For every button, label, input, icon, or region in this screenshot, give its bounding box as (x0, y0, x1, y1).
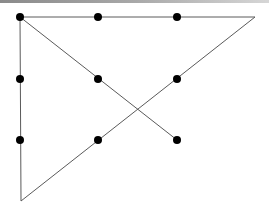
dot-r3-c3 (173, 136, 181, 144)
dot-r2-c2 (94, 75, 102, 83)
dot-r1-c2 (94, 13, 102, 21)
dot-r2-c3 (173, 75, 181, 83)
nine-dots-diagram (0, 0, 269, 218)
dot-r3-c2 (94, 136, 102, 144)
dot-r3-c1 (16, 136, 24, 144)
connecting-path (20, 17, 255, 201)
dot-r1-c1 (16, 13, 24, 21)
dot-r2-c1 (16, 75, 24, 83)
dot-r1-c3 (173, 13, 181, 21)
